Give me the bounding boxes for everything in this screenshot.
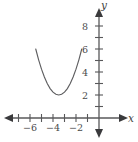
graph-canvas: [0, 0, 138, 142]
y-tick-label-4: 4: [74, 68, 88, 78]
x-tick-label-minus4: −4: [45, 123, 61, 133]
x-axis-arrow-left: [4, 114, 13, 122]
x-axis-label: x: [128, 113, 134, 124]
y-tick-label-8: 8: [74, 22, 88, 32]
y-tick-label-6: 6: [74, 45, 88, 55]
x-tick-label-minus2: −2: [68, 123, 84, 133]
x-tick-label-minus6: −6: [22, 123, 38, 133]
y-axis-arrow-down: [95, 129, 103, 138]
x-axis-arrow-right: [119, 114, 128, 122]
y-tick-label-2: 2: [74, 91, 88, 101]
graph-figure: −6 −4 −2 2 4 6 8 x y: [0, 0, 138, 142]
y-axis-label: y: [101, 0, 107, 11]
